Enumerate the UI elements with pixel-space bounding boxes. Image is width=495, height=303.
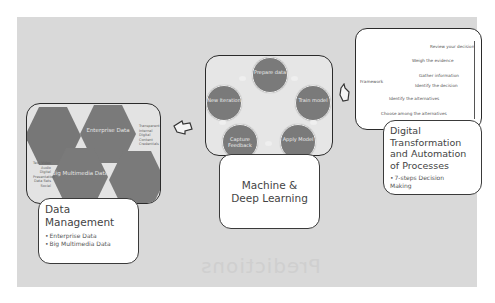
data-management-title: Data Management [45, 203, 115, 229]
arrow-right-icon [173, 119, 193, 135]
decision-step: Review your decision [430, 44, 474, 49]
data-management-card: Data Management Enterprise Data Big Mult… [38, 198, 139, 264]
decision-step: Choose among the alternatives [381, 111, 447, 116]
cycle-connector [219, 120, 226, 125]
decision-step: Identify the decision [415, 83, 458, 88]
automation-card: Digital Transformation and Automation of… [383, 120, 482, 195]
framework-label: Framework [360, 79, 383, 84]
cycle-connector [265, 141, 272, 146]
ml-cycle-frame: Prepare data Train model Apply Model Cap… [205, 55, 333, 156]
cycle-step-prepare-data: Prepare data [252, 57, 288, 93]
background-watermark: Predictions [200, 254, 321, 278]
cycle-connector [291, 76, 298, 81]
ml-title: Machine & Deep Learning [230, 179, 310, 205]
cycle-step-new-iteration: New Iteration [206, 85, 242, 121]
cycle-step-train-model: Train model [295, 85, 331, 121]
arrow-right-icon [339, 83, 351, 103]
data-management-bullets: Enterprise Data Big Multimedia Data [45, 232, 132, 248]
decision-steps-frame: Review your decision Weigh the evidence … [355, 28, 482, 130]
side-note-left: Text Video Audio Digital Presentation Da… [33, 161, 51, 188]
cycle-connector [310, 120, 317, 125]
decision-step: Identify the alternatives [389, 96, 439, 101]
automation-title: Digital Transformation and Automation of… [390, 125, 475, 171]
automation-bullets: 7-steps Decision Making [390, 174, 475, 190]
decision-step: Weigh the evidence [412, 58, 453, 63]
data-management-frame: Enterprise Data Big Multimedia Data Tran… [26, 103, 161, 204]
cycle-connector [239, 76, 246, 81]
ml-card: Machine & Deep Learning [219, 154, 320, 229]
bullet-item: Big Multimedia Data [45, 240, 132, 248]
side-note-right: Transparent Internal Digital Content Cre… [139, 124, 159, 147]
bullet-item: 7-steps Decision Making [390, 174, 450, 190]
steps-axis-line [474, 41, 475, 119]
decision-step: Gather information [419, 73, 459, 78]
bullet-item: Enterprise Data [45, 232, 132, 240]
